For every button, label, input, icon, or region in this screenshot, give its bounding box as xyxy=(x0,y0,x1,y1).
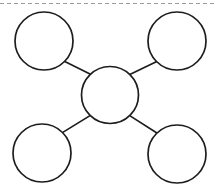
connector-center-to-bottom-right xyxy=(130,116,157,133)
node-bottom-right[interactable] xyxy=(148,125,206,183)
diagram-canvas xyxy=(0,0,216,193)
concept-map-diagram xyxy=(0,0,216,193)
connector-center-to-top-right xyxy=(130,61,157,74)
node-top-right[interactable] xyxy=(148,12,206,70)
connector-center-to-top-left xyxy=(64,61,90,74)
connector-center-to-bottom-left xyxy=(63,116,90,133)
node-top-left[interactable] xyxy=(15,12,73,70)
center-node[interactable] xyxy=(82,67,139,124)
node-layer xyxy=(13,12,206,183)
node-bottom-left[interactable] xyxy=(13,124,71,182)
